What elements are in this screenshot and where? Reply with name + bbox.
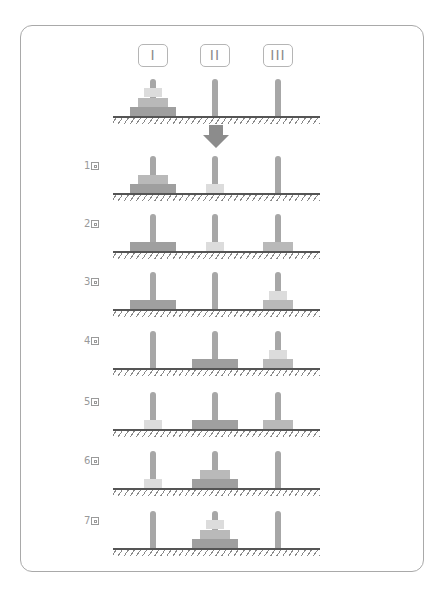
disk-size-3: [192, 479, 238, 488]
step-label: 7: [84, 515, 99, 526]
step-number: 1: [84, 160, 90, 171]
step-label: 3: [84, 276, 99, 287]
ground-hatching: [113, 195, 320, 201]
disk-size-1: [144, 479, 162, 488]
kanji-kai-icon: [91, 398, 99, 406]
disk-size-3: [130, 300, 176, 309]
peg-2: [212, 79, 218, 116]
peg-1: [150, 511, 156, 548]
disk-size-2: [138, 98, 168, 107]
step-label: 6: [84, 455, 99, 466]
step-label: 5: [84, 396, 99, 407]
step-number: 7: [84, 515, 90, 526]
ground-hatching: [113, 370, 320, 376]
ground-hatching: [113, 490, 320, 496]
ground-hatching: [113, 550, 320, 556]
kanji-kai-icon: [91, 457, 99, 465]
disk-size-3: [130, 107, 176, 116]
disk-size-3: [130, 184, 176, 193]
ground-hatching: [113, 118, 320, 124]
kanji-kai-icon: [91, 337, 99, 345]
kanji-kai-icon: [91, 162, 99, 170]
disk-size-2: [200, 530, 230, 539]
disk-size-1: [206, 242, 224, 251]
step-number: 2: [84, 218, 90, 229]
peg-label-ii: II: [200, 44, 230, 67]
peg-3: [275, 156, 281, 193]
disk-size-1: [269, 350, 287, 359]
disk-size-2: [138, 175, 168, 184]
step-number: 5: [84, 396, 90, 407]
peg-3: [275, 511, 281, 548]
disk-size-3: [192, 359, 238, 368]
kanji-kai-icon: [91, 220, 99, 228]
down-arrow-icon: [203, 125, 229, 148]
step-number: 3: [84, 276, 90, 287]
step-number: 4: [84, 335, 90, 346]
disk-size-3: [192, 420, 238, 429]
peg-label-i: I: [138, 44, 168, 67]
disk-size-2: [200, 470, 230, 479]
step-label: 2: [84, 218, 99, 229]
step-label: 1: [84, 160, 99, 171]
disk-size-3: [192, 539, 238, 548]
ground-hatching: [113, 253, 320, 259]
disk-size-2: [263, 420, 293, 429]
peg-3: [275, 451, 281, 488]
disk-size-1: [206, 184, 224, 193]
disk-size-1: [206, 520, 224, 529]
peg-2: [212, 272, 218, 309]
disk-size-1: [269, 291, 287, 300]
kanji-kai-icon: [91, 517, 99, 525]
disk-size-1: [144, 420, 162, 429]
step-number: 6: [84, 455, 90, 466]
ground-hatching: [113, 431, 320, 437]
peg-1: [150, 331, 156, 368]
disk-size-2: [263, 242, 293, 251]
disk-size-1: [144, 88, 162, 97]
ground-hatching: [113, 311, 320, 317]
disk-size-3: [130, 242, 176, 251]
disk-size-2: [263, 359, 293, 368]
step-label: 4: [84, 335, 99, 346]
peg-label-iii: III: [263, 44, 293, 67]
kanji-kai-icon: [91, 278, 99, 286]
disk-size-2: [263, 300, 293, 309]
peg-3: [275, 79, 281, 116]
